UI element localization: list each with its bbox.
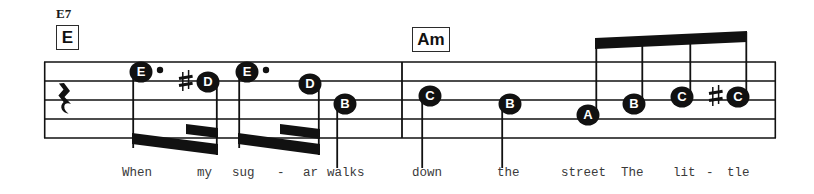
- music-staff-svg: [0, 0, 814, 194]
- notehead-n5: [334, 94, 357, 115]
- lyric-my: my: [197, 166, 212, 180]
- lyric-street: street: [561, 166, 606, 180]
- beam-group-3: [595, 31, 747, 115]
- staff-lines: [44, 62, 776, 138]
- lyric-the: the: [497, 166, 520, 180]
- lyric-down: down: [412, 166, 442, 180]
- lyric-ar: ar: [303, 166, 318, 180]
- dot-n3: [263, 67, 269, 73]
- notehead-n2: [197, 72, 220, 93]
- lead-sheet-notation: E D E D B C B A B C C E7 E Am When my su…: [0, 0, 814, 194]
- notehead-n7: [499, 94, 522, 115]
- notehead-n3: [236, 62, 259, 83]
- chord-box-am[interactable]: Am: [412, 27, 450, 52]
- chord-symbol-e7: E7: [56, 6, 71, 22]
- notehead-n6: [419, 86, 442, 107]
- lyric-tle: tle: [727, 166, 750, 180]
- lyric-the2: The: [621, 166, 644, 180]
- notehead-n10: [671, 87, 694, 108]
- beam-secondary-1: [186, 124, 218, 138]
- lyric-lit: lit: [673, 166, 696, 180]
- notehead-n11: [727, 87, 750, 108]
- lyric-walks: walks: [327, 166, 365, 180]
- notehead-n1: [130, 62, 153, 83]
- notehead-n9: [623, 94, 646, 115]
- notehead-n8: [577, 105, 600, 126]
- sharp-n11: [709, 85, 723, 106]
- beam-primary-3: [595, 31, 747, 49]
- single-stems: [337, 97, 502, 168]
- dot-n1: [157, 67, 163, 73]
- lyric-when: When: [122, 166, 152, 180]
- notehead-n4: [299, 74, 322, 95]
- lyric-sug: sug: [232, 166, 255, 180]
- lyric-hyphen1: -: [277, 166, 285, 180]
- noteheads: [130, 62, 750, 126]
- beam-secondary-2: [280, 124, 320, 139]
- quarter-rest: [58, 83, 71, 113]
- chord-box-e[interactable]: E: [56, 25, 79, 50]
- lyric-hyphen2: -: [706, 166, 714, 180]
